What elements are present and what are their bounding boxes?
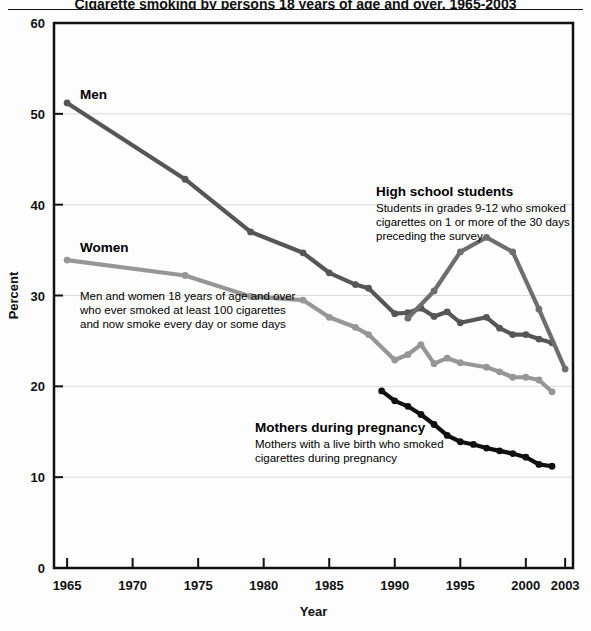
data-point <box>483 234 490 241</box>
data-point <box>457 359 464 366</box>
data-point <box>404 351 411 358</box>
data-point <box>444 308 451 315</box>
data-point <box>378 387 385 394</box>
data-point <box>457 249 464 256</box>
smoking-trends-chart: 0102030405060196519701975198019851990199… <box>0 0 591 631</box>
ytick-label-10: 10 <box>31 470 45 485</box>
data-point <box>444 432 451 439</box>
data-point <box>496 368 503 375</box>
xtick-label-2003: 2003 <box>551 578 580 593</box>
xtick-label-1980: 1980 <box>249 578 278 593</box>
annotation-line: cigarettes on 1 or more of the 30 days <box>376 216 570 228</box>
xtick-label-1965: 1965 <box>53 578 82 593</box>
data-point <box>483 314 490 321</box>
data-point <box>418 411 425 418</box>
data-point <box>496 325 503 332</box>
data-point <box>365 331 372 338</box>
annotation-line: and now smoke every day or some days <box>80 318 286 330</box>
annotation-men-women-note: Men and women 18 years of age and overwh… <box>79 290 296 330</box>
data-point <box>536 377 543 384</box>
ytick-label-50: 50 <box>31 107 45 122</box>
data-point <box>431 288 438 295</box>
ytick-label-60: 60 <box>31 16 45 31</box>
data-point <box>496 447 503 454</box>
data-point <box>549 388 556 395</box>
ytick-label-20: 20 <box>31 379 45 394</box>
data-point <box>431 360 438 367</box>
annotation-line: cigarettes during pregnancy <box>255 452 397 464</box>
data-point <box>509 249 516 256</box>
xtick-label-1975: 1975 <box>184 578 213 593</box>
annotation-heading: Mothers during pregnancy <box>255 420 426 435</box>
data-point <box>549 463 556 470</box>
data-point <box>457 319 464 326</box>
data-point <box>509 450 516 457</box>
data-point <box>509 331 516 338</box>
data-point <box>536 306 543 313</box>
data-point <box>300 249 307 256</box>
data-point <box>404 403 411 410</box>
x-axis-title: Year <box>300 604 327 619</box>
data-point <box>536 461 543 468</box>
data-point <box>182 176 189 183</box>
annotation-line: Men and women 18 years of age and over <box>80 290 296 302</box>
xtick-label-1985: 1985 <box>315 578 344 593</box>
ytick-label-40: 40 <box>31 198 45 213</box>
series-high-school-students <box>404 234 568 373</box>
y-axis-title: Percent <box>6 271 21 319</box>
data-point <box>352 324 359 331</box>
data-point <box>483 445 490 452</box>
data-point <box>300 297 307 304</box>
annotation-heading: High school students <box>376 184 513 199</box>
data-point <box>522 331 529 338</box>
annotation-heading: Men <box>80 87 107 102</box>
data-point <box>522 454 529 461</box>
data-point <box>64 100 71 107</box>
data-point <box>483 364 490 371</box>
data-point <box>509 374 516 381</box>
xtick-label-1990: 1990 <box>380 578 409 593</box>
data-point <box>444 355 451 362</box>
annotation-high-school-students: High school studentsStudents in grades 9… <box>376 184 570 242</box>
data-point <box>391 357 398 364</box>
data-point <box>562 366 569 373</box>
series-line <box>408 237 565 369</box>
annotation-mothers-during-pregnancy: Mothers during pregnancyMothers with a l… <box>255 420 444 464</box>
data-point <box>182 272 189 279</box>
data-point <box>64 257 71 264</box>
data-point <box>431 313 438 320</box>
data-point <box>457 438 464 445</box>
ytick-label-30: 30 <box>31 289 45 304</box>
annotation-line: Mothers with a live birth who smoked <box>255 438 444 450</box>
xtick-label-1970: 1970 <box>118 578 147 593</box>
data-point <box>418 341 425 348</box>
xtick-label-2000: 2000 <box>511 578 540 593</box>
data-point <box>391 310 398 317</box>
annotation-men: Men <box>80 87 107 102</box>
data-point <box>326 269 333 276</box>
data-point <box>352 281 359 288</box>
data-point <box>365 285 372 292</box>
data-point <box>391 397 398 404</box>
annotation-women: Women <box>80 240 129 255</box>
data-point <box>536 336 543 343</box>
chart-canvas: 0102030405060196519701975198019851990199… <box>0 0 591 631</box>
annotation-heading: Women <box>80 240 129 255</box>
data-point <box>326 314 333 321</box>
data-point <box>431 421 438 428</box>
data-point <box>247 229 254 236</box>
data-point <box>522 374 529 381</box>
data-point <box>470 441 477 448</box>
ytick-label-0: 0 <box>38 561 45 576</box>
annotation-line: Students in grades 9-12 who smoked <box>376 202 566 214</box>
annotation-line: preceding the survey <box>376 230 483 242</box>
xtick-label-1995: 1995 <box>446 578 475 593</box>
annotation-line: who ever smoked at least 100 cigarettes <box>79 304 286 316</box>
data-point <box>404 315 411 322</box>
